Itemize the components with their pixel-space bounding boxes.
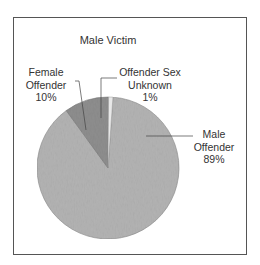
label-unknown-pct: 1%: [110, 91, 190, 104]
label-female-line1: Female: [24, 66, 68, 79]
label-male-line1: Male: [190, 128, 238, 141]
label-female-pct: 10%: [24, 91, 68, 104]
label-female-offender: Female Offender 10%: [24, 66, 68, 104]
chart-title: Male Victim: [0, 34, 216, 46]
label-unknown-line1: Offender Sex: [110, 66, 190, 79]
label-female-line2: Offender: [24, 79, 68, 92]
label-male-line2: Offender: [190, 141, 238, 154]
label-offender-sex-unknown: Offender Sex Unknown 1%: [110, 66, 190, 104]
label-unknown-line2: Unknown: [110, 79, 190, 92]
label-male-offender: Male Offender 89%: [190, 128, 238, 166]
label-male-pct: 89%: [190, 153, 238, 166]
